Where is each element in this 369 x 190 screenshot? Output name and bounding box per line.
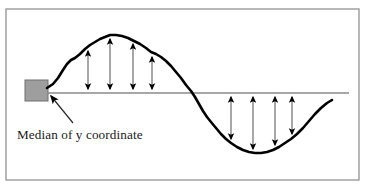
figure-border: [6, 9, 359, 180]
median-callout-arrow: [51, 96, 73, 123]
waveform-median-diagram: [0, 0, 369, 190]
deviation-arrows-below-median: [231, 97, 292, 149]
start-block-marker: [25, 80, 48, 101]
median-caption: Median of y coordinate: [17, 128, 143, 143]
figure-container: Median of y coordinate: [0, 0, 369, 190]
